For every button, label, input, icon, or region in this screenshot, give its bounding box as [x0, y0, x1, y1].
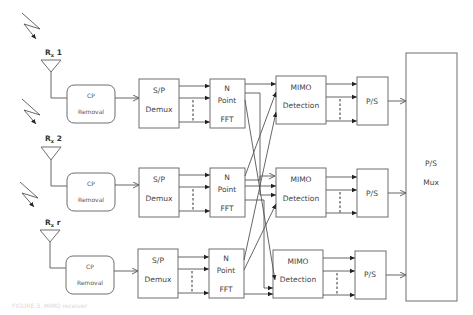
fft-n-label: N: [224, 84, 230, 93]
fft-n-label: N: [224, 173, 230, 182]
mimo-label: MIMO: [290, 175, 311, 184]
lightning-signal-icon: [22, 99, 40, 124]
fft-n-label: N: [223, 254, 229, 263]
ps-label: P/S: [366, 97, 378, 106]
fft-point-label: Point: [217, 266, 236, 275]
row-1: Rx 1 CP Removal S/P Demux N Point FFT MI…: [22, 13, 406, 128]
detection-label: Detection: [280, 275, 317, 284]
sp-label: S/P: [153, 175, 165, 184]
demux-label: Demux: [145, 275, 172, 284]
detection-label: Detection: [283, 194, 320, 203]
antenna-icon: [41, 147, 67, 186]
cp-label: CP: [86, 263, 94, 270]
cp-removal-block-1: [67, 85, 115, 123]
lightning-signal-icon: [20, 182, 38, 207]
fft-to-mimo-crossbar: [244, 84, 276, 294]
removal-label: Removal: [78, 108, 104, 115]
mux-label: Mux: [423, 178, 439, 187]
ps-label: P/S: [364, 270, 376, 279]
antenna-label-rx2: Rx 2: [45, 134, 62, 144]
antenna-icon: [41, 60, 67, 98]
antenna-label-rxr: Rx r: [45, 218, 61, 228]
removal-label: Removal: [78, 196, 104, 203]
fft-label: FFT: [220, 115, 233, 124]
antenna-label-rx1: Rx 1: [45, 48, 62, 58]
mux-ps-label: P/S: [425, 159, 437, 168]
cp-label: CP: [87, 180, 95, 187]
demux-label: Demux: [146, 194, 173, 203]
fft-label: FFT: [219, 285, 232, 294]
antenna-icon: [40, 230, 66, 268]
sp-label: S/P: [153, 86, 165, 95]
cp-removal-block-2: [67, 173, 115, 211]
demux-label: Demux: [146, 105, 173, 114]
fft-point-label: Point: [218, 96, 237, 105]
fft-point-label: Point: [218, 185, 237, 194]
figure-caption: FIGURE 3. MIMO receiver: [12, 302, 87, 309]
mimo-label: MIMO: [290, 83, 311, 92]
ps-mux-block: [406, 53, 457, 301]
removal-label: Removal: [77, 279, 103, 286]
cp-removal-block-3: [66, 256, 114, 294]
ps-label: P/S: [366, 189, 378, 198]
lightning-signal-icon: [22, 13, 40, 39]
mimo-receiver-diagram: Rx 1 CP Removal S/P Demux N Point FFT MI…: [0, 0, 473, 315]
cp-label: CP: [87, 92, 95, 99]
fft-label: FFT: [220, 204, 233, 213]
detection-label: Detection: [283, 101, 320, 110]
sp-label: S/P: [152, 256, 164, 265]
mimo-label: MIMO: [287, 257, 308, 266]
